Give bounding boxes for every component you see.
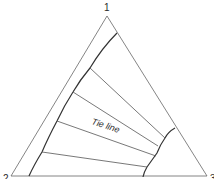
binodal-curve-left xyxy=(29,33,117,176)
tie-line-2 xyxy=(73,92,158,146)
vertex-label-bottom-right: 3 xyxy=(210,173,214,179)
triangle-outline xyxy=(11,16,207,176)
binodal-curve-right xyxy=(143,128,175,177)
ternary-diagram: 1 2 3 Tie line xyxy=(0,0,214,179)
vertex-label-top: 1 xyxy=(104,2,110,13)
vertex-label-bottom-left: 2 xyxy=(3,173,9,179)
tie-line-4 xyxy=(42,152,147,167)
